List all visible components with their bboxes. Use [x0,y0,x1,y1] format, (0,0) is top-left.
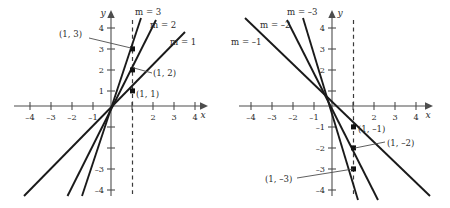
x-axis-label: x [425,109,431,120]
x-tick-label-pos4: 4 [413,112,418,122]
y-axis-label: y [99,7,106,18]
x-tick-label-neg2: –2 [67,112,76,122]
leader-line-point-1-3 [89,38,131,48]
x-tick-label-neg4: –4 [25,112,34,122]
slope-label-m3: m = 3 [135,7,161,17]
y-tick-label-neg4: –4 [316,185,325,195]
point-label-1-neg2: (1, –2) [387,138,414,148]
slope-label-m-neg3: m = –3 [287,7,318,17]
y-tick-label-pos4: 4 [99,23,104,33]
y-tick-label-pos4: 4 [320,23,325,33]
point-marker-1-neg1 [351,124,356,129]
point-label-1-3: (1, 3) [59,29,82,39]
x-tick-label-neg3: –3 [46,112,55,122]
slope-label-m2: m = 2 [150,20,176,30]
slope-label-m-neg2: m = –2 [260,20,291,30]
point-label-1-neg3: (1, –3) [265,174,292,184]
x-tick-label-pos2: 2 [371,112,376,122]
x-tick-label-neg4: –4 [246,112,255,122]
slope-label-m1: m = 1 [170,37,196,47]
y-tick-label-pos2: 2 [99,65,104,75]
leader-line-point-1-neg3 [297,169,353,178]
point-label-1-2: (1, 2) [153,68,176,78]
point-label-1-neg1: (1, –1) [358,124,385,134]
chart-panel-positive-slopes: –4 –3 –2 –1 2 3 4 4 3 2 1 –3 –4 x y (1, … [0,0,225,208]
y-axis-arrow-icon [328,10,335,18]
y-tick-label-pos3: 3 [99,44,104,54]
x-tick-label-pos4: 4 [192,112,197,122]
y-tick-label-neg2: –2 [316,143,325,153]
x-tick-label-neg1: –1 [309,112,318,122]
x-tick-label-neg2: –2 [288,112,297,122]
y-tick-label-neg3: –3 [316,164,325,174]
figure-container: –4 –3 –2 –1 2 3 4 4 3 2 1 –3 –4 x y (1, … [0,0,450,208]
y-axis-arrow-icon [107,10,114,18]
chart-panel-negative-slopes: –4 –3 –2 –1 2 3 4 4 3 2 –1 –2 –3 –4 x y … [225,0,450,208]
x-axis-label: x [200,109,206,120]
x-tick-label-pos3: 3 [392,112,397,122]
y-tick-label-neg4: –4 [95,185,104,195]
point-marker-1-1 [130,88,135,93]
y-tick-label-neg3: –3 [95,164,104,174]
y-tick-label-pos3: 3 [320,44,325,54]
y-axis-label: y [336,7,343,18]
x-tick-label-pos3: 3 [171,112,176,122]
graph-line-m-neg1 [245,18,430,196]
x-tick-label-neg1: –1 [88,112,97,122]
x-tick-label-neg3: –3 [267,112,276,122]
point-label-1-1: (1, 1) [136,89,159,99]
point-marker-1-3 [130,46,135,51]
y-tick-label-neg1: –1 [316,122,325,132]
x-tick-label-pos2: 2 [150,112,155,122]
y-tick-label-pos1: 1 [99,86,104,96]
slope-label-m-neg1: m = –1 [231,37,262,47]
